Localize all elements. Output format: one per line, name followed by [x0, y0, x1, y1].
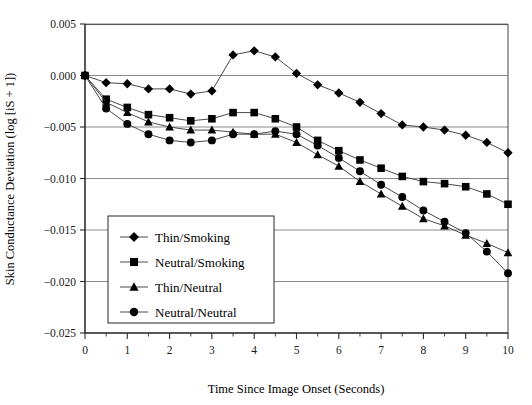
data-point-square [272, 115, 280, 123]
x-axis-title: Time Since Image Onset (Seconds) [208, 382, 385, 396]
data-point-circle [81, 72, 89, 80]
data-point-square [208, 115, 216, 123]
y-tick-label: −0.020 [44, 276, 77, 288]
x-tick-label: 2 [167, 344, 173, 356]
data-point-square [145, 111, 153, 119]
data-point-square [166, 114, 174, 122]
data-point-circle [208, 136, 216, 144]
data-point-square [398, 173, 406, 181]
skin-conductance-line-chart: 0.0050.000−0.005−0.010−0.015−0.020−0.025… [0, 0, 532, 405]
y-tick-label: 0.005 [50, 18, 76, 30]
x-tick-label: 7 [378, 344, 384, 356]
data-point-circle [271, 127, 279, 135]
x-tick-label: 9 [463, 344, 469, 356]
x-tick-label: 3 [209, 344, 215, 356]
chart-background [0, 0, 532, 405]
data-point-square [462, 183, 470, 191]
data-point-square [187, 117, 195, 125]
data-point-circle [504, 269, 512, 277]
data-point-circle [229, 130, 237, 138]
data-point-circle [102, 105, 110, 113]
x-tick-label: 5 [294, 344, 300, 356]
data-point-square [293, 123, 301, 131]
y-tick-label: −0.015 [44, 224, 77, 236]
x-tick-label: 4 [251, 344, 257, 356]
data-point-circle [419, 206, 427, 214]
data-point-circle [144, 130, 152, 138]
data-point-square [483, 190, 491, 198]
x-tick-label: 1 [124, 344, 130, 356]
y-tick-label: −0.005 [44, 121, 77, 133]
data-point-square [335, 147, 343, 155]
legend-label: Thin/Smoking [155, 230, 231, 245]
data-point-square [441, 180, 449, 188]
data-point-circle [356, 167, 364, 175]
chart-legend: Thin/SmokingNeutral/SmokingThin/NeutralN… [108, 216, 274, 323]
data-point-circle [314, 142, 322, 150]
x-tick-label: 0 [82, 344, 88, 356]
y-tick-label: 0.000 [50, 70, 76, 82]
y-axis-title: Skin Conductance Deviation (log [iS + 1]… [3, 73, 17, 286]
data-point-circle [166, 136, 174, 144]
data-point-circle [462, 229, 470, 237]
data-point-square [250, 109, 258, 117]
data-point-circle [293, 130, 301, 138]
data-point-circle [441, 218, 449, 226]
data-point-square [420, 178, 428, 186]
data-point-square [356, 156, 364, 164]
y-tick-label: −0.010 [44, 173, 77, 185]
legend-label: Neutral/Neutral [155, 305, 237, 320]
x-tick-label: 8 [421, 344, 427, 356]
x-tick-label: 6 [336, 344, 342, 356]
data-point-square [377, 164, 385, 172]
data-point-circle [335, 154, 343, 162]
data-point-circle [123, 120, 131, 128]
data-point-circle [377, 181, 385, 189]
y-tick-label: −0.025 [44, 327, 77, 339]
data-point-circle [483, 248, 491, 256]
data-point-circle [187, 138, 195, 146]
data-point-circle [250, 130, 258, 138]
legend-label: Neutral/Smoking [155, 255, 245, 270]
legend-label: Thin/Neutral [155, 280, 223, 295]
data-point-square [229, 109, 237, 117]
data-point-square [504, 200, 512, 208]
data-point-circle [130, 308, 138, 316]
data-point-square [130, 258, 138, 266]
data-point-circle [398, 193, 406, 201]
x-tick-label: 10 [502, 344, 514, 356]
